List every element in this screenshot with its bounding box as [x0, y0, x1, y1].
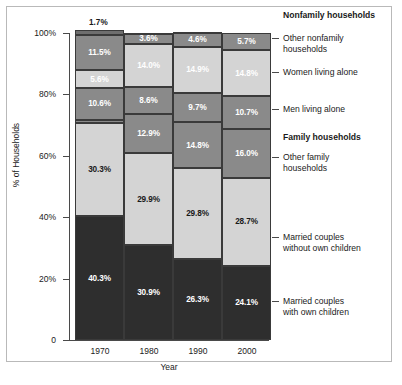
segment-value-label: 10.6% — [88, 99, 111, 108]
segment-value-label: 14.0% — [137, 61, 160, 70]
legend-connector-dash — [272, 237, 279, 238]
stacked-bar-chart: % of Households Year 020%40%60%80%100% 1… — [0, 0, 402, 385]
y-axis-line — [69, 33, 70, 341]
bar-1980[interactable]: 30.9%29.9%12.9%8.6%14.0%3.6% — [124, 33, 173, 340]
segment[interactable]: 14.0% — [124, 44, 173, 87]
segment[interactable]: 30.3% — [75, 123, 124, 216]
legend-connector-dash — [272, 301, 279, 302]
x-axis-tick-label: 1970 — [75, 346, 125, 356]
segment[interactable] — [124, 33, 173, 35]
segment[interactable] — [173, 32, 222, 34]
x-axis-tick-label: 1980 — [124, 346, 174, 356]
segment-value-label: 11.5% — [88, 48, 110, 57]
segment-value-label: 29.9% — [137, 195, 160, 204]
segment-value-label: 3.6% — [139, 34, 157, 43]
segment[interactable]: 29.9% — [124, 153, 173, 245]
y-axis-tick-label: 0 — [14, 336, 56, 345]
x-axis-line — [69, 340, 269, 341]
segment-value-label: 26.3% — [186, 295, 209, 304]
segment[interactable] — [75, 30, 124, 35]
legend-connector-dash — [272, 72, 279, 73]
y-axis-tick-label: 40% — [14, 213, 56, 222]
segment[interactable]: 4.6% — [173, 33, 222, 47]
segment-value-label: 30.3% — [88, 165, 111, 174]
segment[interactable]: 12.9% — [124, 114, 173, 154]
x-axis-tick-label: 1990 — [173, 346, 223, 356]
segment[interactable]: 10.7% — [222, 96, 271, 129]
y-axis-tick-label: 20% — [14, 275, 56, 284]
segment-value-label: 29.8% — [186, 209, 209, 218]
bar-1970[interactable]: 40.3%30.3%10.6%5.6%11.5% — [75, 33, 124, 340]
segment[interactable]: 5.6% — [75, 70, 124, 87]
segment[interactable]: 26.3% — [173, 259, 222, 340]
legend-entry[interactable]: Married couples with own children — [283, 296, 395, 317]
y-axis-tick-label: 80% — [14, 90, 56, 99]
segment[interactable]: 8.6% — [124, 87, 173, 113]
segment-value-label: 4.6% — [188, 35, 206, 44]
segment[interactable]: 14.8% — [222, 50, 271, 95]
segment-value-label: 40.3% — [88, 274, 111, 283]
segment[interactable]: 16.0% — [222, 129, 271, 178]
segment[interactable]: 14.9% — [173, 47, 222, 93]
legend-connector-dash — [272, 109, 279, 110]
y-axis-tick — [63, 217, 69, 218]
legend-entry[interactable]: Other family households — [283, 152, 395, 173]
y-axis-tick — [63, 340, 69, 341]
segment[interactable] — [75, 120, 124, 123]
segment-value-label: 10.7% — [235, 108, 258, 117]
segment[interactable]: 11.5% — [75, 35, 124, 70]
segment-value-label: 5.6% — [90, 75, 108, 84]
x-axis-tick-label: 2000 — [222, 346, 272, 356]
y-axis-tick — [63, 156, 69, 157]
legend-entry[interactable]: Married couples without own children — [283, 232, 395, 253]
segment-value-label: 14.9% — [186, 65, 209, 74]
segment-value-label: 5.7% — [237, 37, 255, 46]
segment[interactable]: 29.8% — [173, 168, 222, 259]
segment-value-label: 9.7% — [188, 103, 206, 112]
bar-2000[interactable]: 24.1%28.7%16.0%10.7%14.8%5.7% — [222, 33, 271, 340]
segment-value-label: 14.8% — [186, 141, 209, 150]
x-axis-title: Year — [69, 362, 269, 372]
segment-value-label: 28.7% — [235, 217, 258, 226]
segment[interactable]: 24.1% — [222, 266, 271, 340]
y-axis-tick — [63, 279, 69, 280]
segment[interactable]: 30.9% — [124, 245, 173, 340]
segment-value-label: 24.1% — [235, 298, 258, 307]
y-axis-tick-label: 100% — [14, 29, 56, 38]
segment[interactable]: 5.7% — [222, 33, 271, 50]
legend-entry[interactable]: Nonfamily households — [283, 10, 395, 21]
segment-value-label: 14.8% — [235, 69, 258, 78]
segment-value-label: 12.9% — [137, 129, 160, 138]
legend-connector-dash — [272, 38, 279, 39]
legend-entry[interactable]: Men living alone — [283, 104, 395, 115]
y-axis-tick — [63, 94, 69, 95]
segment[interactable]: 40.3% — [75, 216, 124, 340]
legend-entry[interactable]: Other nonfamily households — [283, 33, 395, 54]
outside-value-label: 1.7% — [89, 18, 108, 27]
segment[interactable]: 14.8% — [173, 122, 222, 167]
bar-1990[interactable]: 26.3%29.8%14.8%9.7%14.9%4.6% — [173, 33, 222, 340]
legend-entry[interactable]: Family households — [283, 132, 395, 143]
segment-value-label: 16.0% — [235, 149, 258, 158]
segment[interactable]: 9.7% — [173, 93, 222, 123]
segment-value-label: 30.9% — [137, 288, 160, 297]
y-axis-tick-label: 60% — [14, 152, 56, 161]
legend-entry[interactable]: Women living alone — [283, 67, 395, 78]
segment[interactable]: 10.6% — [75, 88, 124, 121]
legend-connector-dash — [272, 157, 279, 158]
segment-value-label: 8.6% — [139, 96, 157, 105]
segment[interactable]: 28.7% — [222, 178, 271, 266]
y-axis-tick — [63, 33, 69, 34]
